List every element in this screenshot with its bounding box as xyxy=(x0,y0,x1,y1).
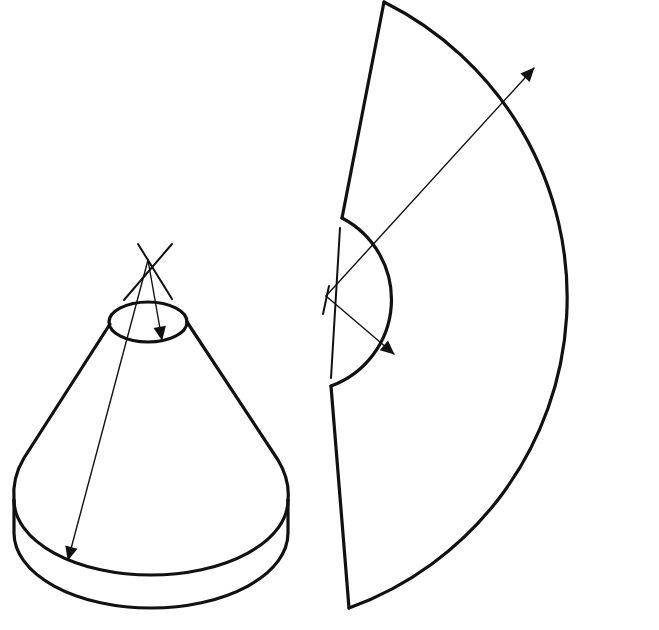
centre-tick xyxy=(323,286,329,314)
inner-radius-arrow xyxy=(326,296,394,354)
outer-arc xyxy=(349,2,567,608)
lower-edge xyxy=(331,386,349,608)
apex-construction-line-right xyxy=(138,244,172,299)
cone-left-side xyxy=(14,324,110,500)
slant-height-arrow xyxy=(68,260,148,560)
development-pattern xyxy=(323,2,567,608)
apex-construction-line-left xyxy=(124,244,172,300)
upper-edge xyxy=(342,2,384,218)
cone-right-side xyxy=(187,322,288,500)
cone-base-rim xyxy=(14,500,288,575)
frustum-cone xyxy=(14,244,289,608)
cone-development-diagram xyxy=(0,0,659,630)
outer-radius-arrow xyxy=(326,68,534,296)
centre-construction-line xyxy=(331,228,340,378)
cone-top-opening xyxy=(109,302,187,342)
